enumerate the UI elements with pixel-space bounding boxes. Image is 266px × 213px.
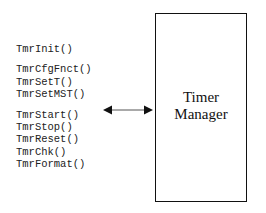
fn-tmrinit: TmrInit() xyxy=(16,43,92,55)
fn-tmrformat: TmrFormat() xyxy=(16,158,92,170)
bidirectional-arrow-icon xyxy=(103,103,153,117)
fn-tmrstop: TmrStop() xyxy=(16,121,92,133)
fn-tmrstart: TmrStart() xyxy=(16,109,92,121)
timer-manager-label: Timer Manager xyxy=(156,89,246,123)
timer-manager-box: Timer Manager xyxy=(155,13,247,202)
box-label-line2: Manager xyxy=(156,106,246,123)
fn-tmrreset: TmrReset() xyxy=(16,133,92,145)
fn-tmrcfgfnct: TmrCfgFnct() xyxy=(16,63,92,75)
fn-tmrchk: TmrChk() xyxy=(16,146,92,158)
fn-tmrsett: TmrSetT() xyxy=(16,76,92,88)
fn-tmrsetmst: TmrSetMST() xyxy=(16,88,92,100)
box-label-line1: Timer xyxy=(156,89,246,106)
function-list: TmrInit() TmrCfgFnct() TmrSetT() TmrSetM… xyxy=(16,43,92,171)
